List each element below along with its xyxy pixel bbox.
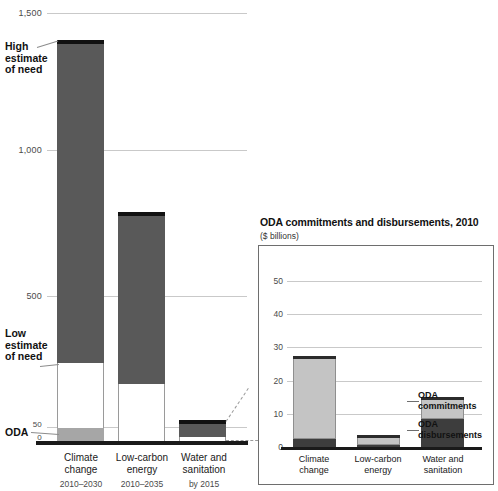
- xtick-climate-change-line2: change: [65, 464, 98, 475]
- inset-xtick-climate-change-line2: change: [299, 465, 329, 475]
- legend-oda-commitments-line2: commitments: [418, 401, 477, 411]
- annotation-high-estimate-line3: of need: [5, 63, 42, 75]
- inset-xtick-low-carbon-energy-line2: energy: [364, 465, 392, 475]
- inset-bar-low-carbon-energy-disbursements: [357, 445, 400, 447]
- main-x-axis: [36, 441, 248, 445]
- inset-bar-climate-change-disbursements: [293, 439, 336, 447]
- inset-bar-climate-change-cap: [293, 356, 336, 359]
- inset-chart-subtitle: ($ billions): [260, 231, 299, 241]
- xtick-water-and-sanitation-line2: sanitation: [183, 464, 226, 475]
- annotation-oda: ODA: [5, 427, 28, 439]
- legend-oda-disbursements-leader: [407, 430, 419, 431]
- inset-ytick-30: 30: [261, 342, 283, 352]
- inset-chart: ODA commitments and disbursements, 2010 …: [252, 212, 498, 491]
- inset-ytick-40: 40: [261, 309, 283, 319]
- legend-oda-commitments: ODA commitments: [418, 390, 477, 411]
- legend-oda-commitments-line1: ODA: [418, 390, 438, 400]
- bar-climate-change-oda: [57, 428, 104, 441]
- gridline-1500: [47, 13, 247, 14]
- main-chart-plot: 1,500 1,000 500 50 0: [0, 0, 250, 491]
- ytick-1000: 1,000: [0, 145, 42, 155]
- legend-oda-disbursements: ODA disbursements: [418, 419, 482, 440]
- inset-xtick-climate-change-line1: Climate: [299, 454, 330, 464]
- xtick-water-and-sanitation-period: by 2015: [168, 478, 240, 490]
- bar-climate-change[interactable]: [57, 40, 104, 441]
- annotation-low-estimate-line2: estimate: [5, 339, 48, 351]
- legend-oda-disbursements-line2: disbursements: [418, 430, 482, 440]
- inset-ytick-0: 0: [261, 442, 283, 452]
- bar-water-and-sanitation-top-cap: [179, 420, 226, 424]
- inset-chart-title: ODA commitments and disbursements, 2010: [260, 216, 479, 228]
- bar-climate-change-high-estimate: [57, 40, 104, 363]
- inset-xtick-water-and-sanitation-line1: Water and: [422, 454, 463, 464]
- xtick-low-carbon-energy-line2: energy: [127, 464, 158, 475]
- ytick-1500: 1,500: [0, 8, 42, 18]
- annotation-low-estimate-line1: Low: [5, 327, 26, 339]
- inset-gridline-30: [287, 347, 482, 348]
- legend-oda-disbursements-line1: ODA: [418, 419, 438, 429]
- inset-chart-frame: 50 40 30 20 10 0 Climate change: [258, 245, 494, 485]
- inset-xtick-water-and-sanitation: Water and sanitation: [411, 454, 475, 476]
- bar-low-carbon-energy-top-cap: [118, 212, 165, 216]
- xtick-water-and-sanitation: Water and sanitation by 2015: [168, 452, 240, 490]
- xtick-low-carbon-energy-line1: Low-carbon: [116, 452, 168, 463]
- inset-x-axis: [281, 447, 482, 450]
- inset-ytick-20: 20: [261, 376, 283, 386]
- bar-low-carbon-energy[interactable]: [118, 212, 165, 441]
- inset-ytick-50: 50: [261, 276, 283, 286]
- inset-bar-low-carbon-energy[interactable]: [357, 435, 400, 447]
- bar-low-carbon-energy-low-estimate: [118, 384, 165, 441]
- inset-bar-low-carbon-energy-cap: [357, 435, 400, 438]
- bar-climate-change-low-estimate: [57, 363, 104, 428]
- inset-ytick-10: 10: [261, 409, 283, 419]
- bar-climate-change-top-cap: [57, 40, 104, 44]
- bar-water-and-sanitation[interactable]: [179, 420, 226, 441]
- ytick-500: 500: [0, 291, 42, 301]
- inset-xtick-water-and-sanitation-line2: sanitation: [424, 465, 463, 475]
- annotation-low-estimate-line3: of need: [5, 350, 42, 362]
- legend-oda-commitments-leader: [407, 401, 419, 402]
- inset-xtick-climate-change: Climate change: [283, 454, 345, 476]
- annotation-low-estimate: Low estimate of need: [5, 328, 48, 363]
- inset-bar-climate-change-commitments: [293, 356, 336, 439]
- annotation-high-estimate-line1: High: [5, 40, 28, 52]
- xtick-climate-change-line1: Climate: [64, 452, 98, 463]
- inset-xtick-low-carbon-energy-line1: Low-carbon: [354, 454, 401, 464]
- bar-low-carbon-energy-high-estimate: [118, 212, 165, 384]
- bar-water-and-sanitation-low-estimate: [179, 437, 226, 441]
- annotation-high-estimate-line2: estimate: [5, 52, 48, 64]
- main-chart: 1,500 1,000 500 50 0: [0, 0, 250, 491]
- inset-xtick-low-carbon-energy: Low-carbon energy: [347, 454, 409, 476]
- inset-gridline-40: [287, 314, 482, 315]
- inset-gridline-50: [287, 281, 482, 282]
- inset-bar-climate-change[interactable]: [293, 356, 336, 447]
- xtick-water-and-sanitation-line1: Water and: [181, 452, 227, 463]
